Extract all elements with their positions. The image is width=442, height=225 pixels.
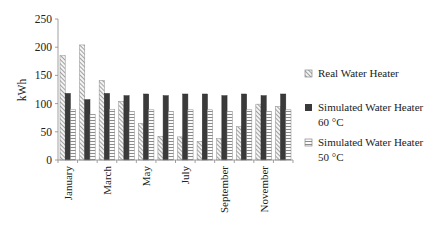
bar-january-series-2 — [70, 109, 75, 160]
legend-label-sim60-temp: 60 °C — [318, 116, 344, 128]
y-tick-label: 100 — [35, 98, 53, 110]
y-tick-label: 200 — [35, 41, 53, 53]
bar-january-series-1 — [65, 93, 70, 160]
bar-july-series-2 — [188, 110, 193, 160]
bar-november-series-2 — [266, 111, 271, 160]
bar-march-series-2 — [110, 109, 115, 160]
y-tick-label: 50 — [41, 126, 53, 138]
y-axis: 050100150200250 — [35, 13, 58, 166]
bar-november-series-0 — [256, 104, 261, 160]
bar-november-series-1 — [261, 96, 266, 160]
x-tick-label-july: July — [179, 166, 191, 185]
bar-july-series-0 — [177, 137, 182, 160]
x-tick-label-november: November — [258, 166, 270, 213]
bar-august-series-0 — [197, 141, 202, 160]
x-tick-label-january: January — [62, 166, 74, 201]
bar-june-series-0 — [158, 136, 163, 160]
bar-june-series-2 — [168, 111, 173, 160]
bar-december-series-2 — [286, 110, 291, 160]
legend-item-sim50: Simulated Water Heater 50 °C — [305, 136, 424, 163]
bar-april-series-2 — [129, 111, 134, 160]
y-tick-label: 150 — [35, 69, 53, 81]
legend-swatch-solid-icon — [305, 104, 312, 111]
x-tick-label-september: September — [218, 166, 230, 213]
bar-may-series-0 — [138, 123, 143, 160]
bars-group — [60, 45, 291, 160]
bar-april-series-0 — [119, 101, 124, 160]
bar-may-series-1 — [144, 94, 149, 160]
bar-march-series-1 — [104, 93, 109, 160]
bar-october-series-1 — [241, 94, 246, 160]
x-tick-label-march: March — [101, 166, 113, 195]
bar-august-series-2 — [207, 110, 212, 160]
y-axis-title: kWh — [16, 79, 28, 102]
bar-february-series-0 — [80, 45, 85, 160]
legend-label-sim60: Simulated Water Heater — [318, 101, 424, 113]
bar-october-series-2 — [247, 110, 252, 160]
legend-swatch-horizontal-lines-icon — [305, 139, 312, 146]
bar-december-series-0 — [275, 106, 280, 160]
bar-september-series-1 — [222, 96, 227, 160]
x-tick-label-may: May — [140, 166, 152, 187]
y-tick-label: 0 — [46, 154, 52, 166]
legend-label-sim50-temp: 50 °C — [318, 151, 344, 163]
x-axis: JanuaryMarchMayJulySeptemberNovember — [58, 160, 293, 213]
legend-swatch-diagonal-icon — [305, 70, 312, 77]
bar-january-series-0 — [60, 56, 65, 160]
bar-chart: 050100150200250 JanuaryMarchMayJulySepte… — [0, 0, 442, 225]
bar-february-series-1 — [85, 100, 90, 160]
bar-march-series-0 — [99, 80, 104, 160]
y-tick-label: 250 — [35, 13, 53, 25]
bar-june-series-1 — [163, 96, 168, 160]
bar-september-series-0 — [217, 139, 222, 160]
legend-item-sim60: Simulated Water Heater 60 °C — [305, 101, 424, 128]
bar-september-series-2 — [227, 111, 232, 160]
bar-august-series-1 — [202, 94, 207, 160]
bar-february-series-2 — [90, 114, 95, 160]
legend-item-real: Real Water Heater — [305, 67, 399, 79]
bar-july-series-1 — [183, 94, 188, 160]
bar-april-series-1 — [124, 96, 129, 160]
legend-label-real: Real Water Heater — [318, 67, 399, 79]
legend-label-sim50: Simulated Water Heater — [318, 136, 424, 148]
bar-october-series-0 — [236, 127, 241, 160]
legend: Real Water Heater Simulated Water Heater… — [305, 67, 424, 163]
bar-december-series-1 — [281, 94, 286, 160]
bar-may-series-2 — [149, 110, 154, 160]
